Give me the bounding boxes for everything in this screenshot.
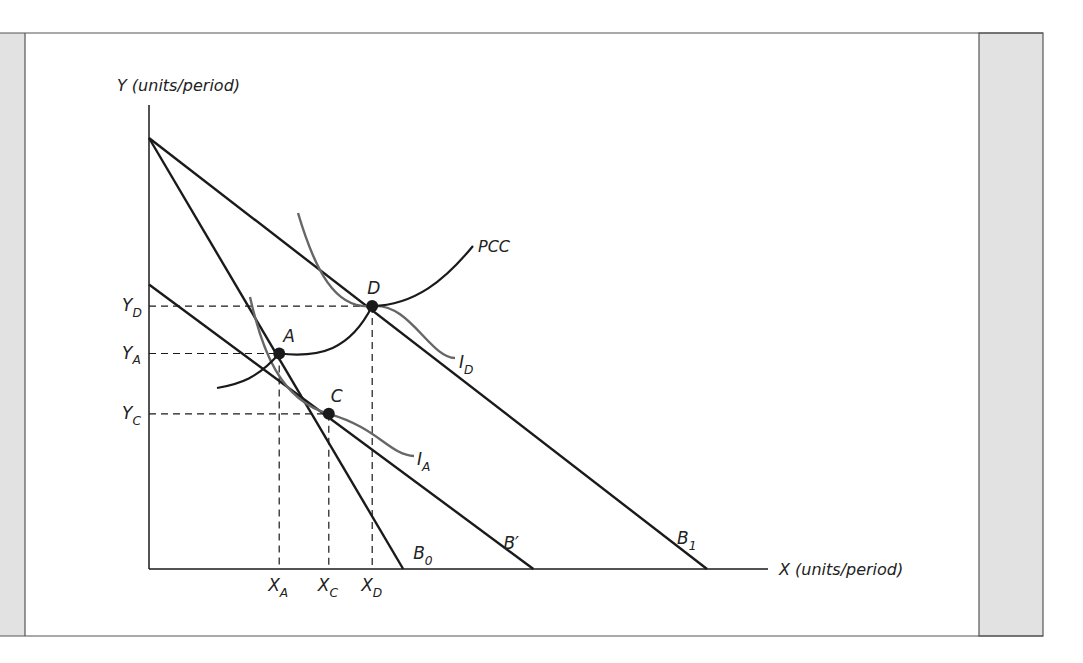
- y-tick-C: YC: [122, 403, 141, 428]
- left-side-panel: [0, 33, 25, 636]
- budget-line-Bprime: [149, 285, 533, 569]
- y-axis-label: Y (units/period): [117, 76, 240, 95]
- point-C: [323, 408, 335, 420]
- y-tick-D: YD: [122, 295, 142, 320]
- x-tick-D: XD: [360, 575, 382, 600]
- equilibrium-points: ACD: [273, 278, 380, 420]
- point-label-A: A: [282, 326, 295, 346]
- point-label-D: D: [367, 278, 380, 298]
- point-label-C: C: [331, 386, 343, 406]
- right-side-panel: [979, 33, 1043, 636]
- budget-lines: B0B1B′: [149, 138, 707, 569]
- x-axis-label: X (units/period): [778, 560, 903, 579]
- curve-label-IA: IA: [417, 449, 430, 474]
- pcc-label: PCC: [478, 237, 511, 256]
- budget-label-Bprime: B′: [503, 533, 519, 553]
- point-D: [366, 300, 378, 312]
- point-A: [273, 348, 285, 360]
- y-tick-A: YA: [122, 343, 141, 368]
- curve-label-ID: ID: [459, 352, 473, 377]
- figure-canvas: Y (units/period) X (units/period) B0B1B′…: [0, 0, 1083, 663]
- budget-line-B1: [149, 138, 707, 569]
- x-tick-A: XA: [267, 575, 288, 600]
- x-tick-C: XC: [317, 575, 339, 600]
- budget-label-B0: B0: [413, 543, 433, 568]
